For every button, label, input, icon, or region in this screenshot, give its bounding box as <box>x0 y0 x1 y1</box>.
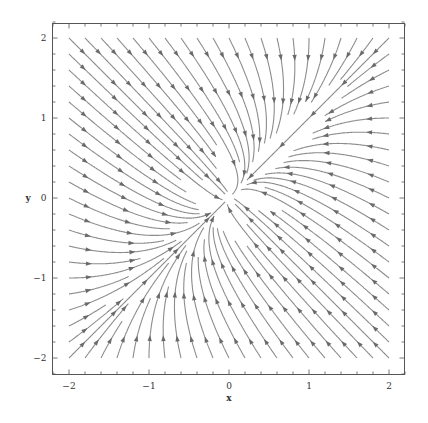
streamline <box>284 161 389 182</box>
streamline <box>311 38 341 102</box>
streamline-arrow <box>219 52 226 59</box>
streamline <box>117 38 216 157</box>
streamline-arrow <box>241 267 248 274</box>
y-tick-label: −2 <box>33 353 46 363</box>
streamline-arrow <box>162 211 169 217</box>
streamline-arrow <box>368 216 375 223</box>
streamline <box>69 230 164 243</box>
streamline-arrow <box>217 336 223 343</box>
streamline-arrow <box>230 265 237 272</box>
streamline-arrow <box>323 125 330 131</box>
streamline-arrow <box>318 54 324 61</box>
streamline-arrow <box>369 231 376 238</box>
streamline <box>217 228 293 358</box>
streamline-arrow <box>83 313 90 320</box>
streamline <box>294 143 389 150</box>
streamline <box>270 211 389 310</box>
streamline-arrow <box>107 337 114 344</box>
streamline-arrow <box>128 241 134 246</box>
streamline <box>198 257 229 358</box>
streamline-arrow <box>204 51 211 58</box>
streamline-arrow <box>367 172 374 178</box>
x-axis-label: x <box>226 393 232 403</box>
streamline-arrow <box>129 250 135 255</box>
streamline-arrow <box>366 130 372 135</box>
streamline-arrow <box>239 301 246 308</box>
streamline <box>245 38 266 143</box>
streamline-arrow <box>289 98 295 105</box>
streamline-arrow <box>262 338 269 345</box>
streamline-arrow <box>214 194 221 201</box>
streamline <box>184 263 197 358</box>
x-tick-label: 2 <box>386 381 392 391</box>
streamline-arrow <box>84 218 91 224</box>
streamline <box>275 167 389 198</box>
streamline-arrow <box>257 137 262 143</box>
streamline-arrow <box>333 221 340 228</box>
streamline-arrow <box>260 190 267 196</box>
streamline-arrow <box>226 90 233 97</box>
streamline-arrow <box>219 262 225 269</box>
streamline-arrow <box>322 133 329 139</box>
streamline-arrow <box>125 219 132 225</box>
streamline-arrow <box>226 299 233 306</box>
streamline-arrow <box>368 201 375 208</box>
streamline-arrow <box>203 336 209 343</box>
streamline-arrow <box>249 53 255 60</box>
streamline-arrow <box>296 97 302 104</box>
streamline-arrow <box>289 179 296 185</box>
x-tick-label: −2 <box>62 381 75 391</box>
streamline <box>229 38 260 152</box>
streamline-arrow <box>281 98 286 104</box>
streamline-arrow <box>327 109 334 116</box>
streamline-arrow <box>226 206 233 213</box>
streamline-arrow <box>161 335 166 341</box>
streamline-arrow <box>83 188 90 195</box>
streamline-arrow <box>173 291 178 297</box>
streamline-arrow <box>213 297 219 304</box>
streamlines-layer <box>69 38 389 358</box>
y-axis-label: y <box>24 193 31 203</box>
streamline-arrow <box>212 88 219 95</box>
streamline <box>69 299 123 342</box>
streamline-arrow <box>199 86 206 93</box>
streamline-arrow <box>231 160 237 167</box>
streamline-arrow <box>250 94 256 101</box>
streamline <box>247 224 373 358</box>
y-tick-label: 1 <box>41 113 47 123</box>
y-tick-label: 0 <box>41 193 47 203</box>
streamline-arrow <box>202 295 208 302</box>
streamline-arrow <box>123 207 130 213</box>
x-tick-labels: −2 −1 0 1 2 <box>62 381 392 391</box>
streamline-arrow <box>344 52 351 59</box>
streamline-arrow <box>293 188 300 194</box>
streamline <box>149 245 186 358</box>
streamline <box>247 38 389 180</box>
streamline-arrow <box>165 220 171 225</box>
streamline-arrow <box>124 280 131 287</box>
x-tick-label: 1 <box>306 381 312 391</box>
streamline-arrow <box>117 168 124 175</box>
streamline-arrow <box>368 76 375 83</box>
streamline-arrow <box>264 54 270 61</box>
x-tick-label: 0 <box>226 381 232 391</box>
streamline <box>85 304 128 358</box>
streamline-arrow <box>366 103 373 109</box>
streamline-arrow <box>304 95 311 102</box>
streamline-arrow <box>326 171 333 177</box>
streamline <box>289 153 390 166</box>
streamline <box>149 38 238 194</box>
streamline-arrow <box>292 55 297 61</box>
streamline-arrow <box>202 255 207 261</box>
streamline <box>69 198 170 229</box>
streamline-arrow <box>120 336 126 343</box>
streamline <box>69 54 203 180</box>
streamline-arrow <box>164 291 170 298</box>
streamline <box>181 38 245 183</box>
streamline-arrow <box>311 93 318 100</box>
streamline-arrow <box>272 97 277 103</box>
streamline-arrow <box>328 182 335 188</box>
streamline <box>276 38 283 133</box>
streamline-arrow <box>84 300 91 306</box>
streamline-arrow <box>252 302 259 309</box>
